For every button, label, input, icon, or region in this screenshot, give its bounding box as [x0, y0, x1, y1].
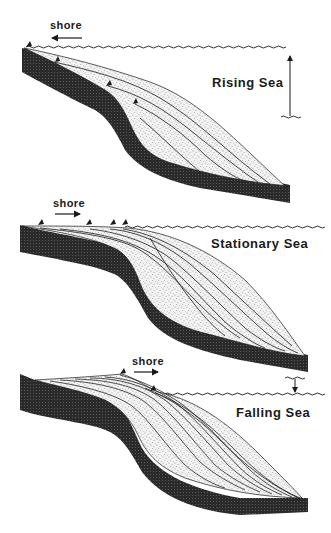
lower-water-mark — [281, 116, 301, 118]
title-rising-sea: Rising Sea — [212, 75, 283, 90]
shore-label-falling: shore — [132, 355, 164, 367]
shoreline-markers — [38, 219, 128, 225]
sea-level-line — [155, 393, 325, 395]
title-stationary-sea: Stationary Sea — [211, 236, 308, 251]
shore-label-stationary: shore — [53, 197, 85, 209]
title-falling-sea: Falling Sea — [236, 405, 310, 420]
panel-falling-sea — [20, 368, 325, 515]
upper-water-mark — [285, 377, 305, 379]
shore-label-rising: shore — [50, 19, 82, 31]
panel-rising-sea — [22, 38, 301, 203]
sea-level-line — [26, 46, 286, 48]
sea-level-line — [125, 226, 325, 228]
